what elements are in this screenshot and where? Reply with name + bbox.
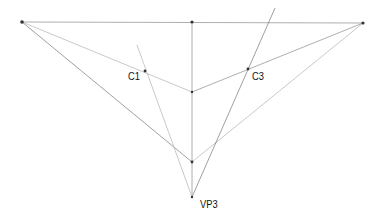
perspective-diagram: C1 C3 VP3	[0, 0, 380, 213]
diagram-lines	[0, 0, 380, 213]
label-c1: C1	[128, 70, 140, 82]
label-c3: C3	[252, 70, 264, 82]
label-vp3: VP3	[200, 198, 218, 210]
